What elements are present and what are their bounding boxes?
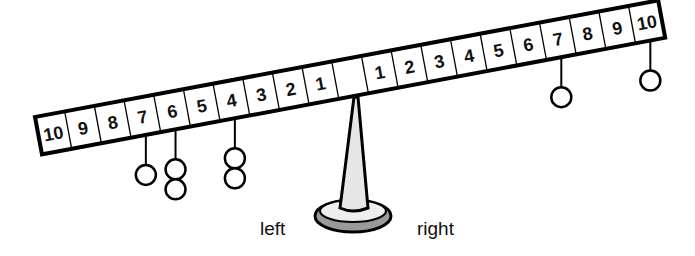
weight-stack	[166, 129, 186, 199]
right-label: right	[417, 218, 454, 240]
weight-icon	[166, 159, 186, 179]
weight-stack	[136, 135, 156, 185]
weight-stack	[225, 118, 245, 188]
weight-icon	[225, 168, 245, 188]
weight-icon	[551, 87, 571, 107]
weight-stack	[640, 41, 660, 91]
beam-cell-label: 10	[42, 122, 65, 145]
weight-icon	[136, 165, 156, 185]
balance-scene: 1098765432112345678910	[0, 0, 695, 256]
weight-icon	[640, 71, 660, 91]
weight-icon	[166, 179, 186, 199]
weight-stack	[551, 57, 571, 107]
left-label: left	[260, 218, 285, 240]
weight-icon	[225, 148, 245, 168]
beam-cell-label: 10	[635, 11, 658, 34]
fulcrum-pillar	[340, 97, 368, 211]
